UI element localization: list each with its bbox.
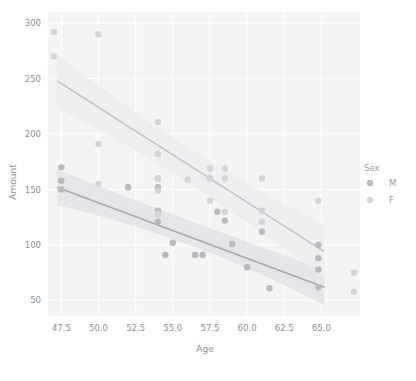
data-point: [229, 241, 235, 247]
data-point: [207, 197, 213, 203]
data-point: [155, 218, 161, 224]
x-tick-label: 57.5: [200, 323, 219, 333]
y-tick-label: 250: [25, 74, 41, 84]
data-point: [222, 165, 228, 171]
data-point: [315, 284, 321, 290]
data-point: [155, 119, 161, 125]
data-point: [162, 252, 168, 258]
x-tick-label: 55.0: [163, 323, 182, 333]
scatter-plot-svg: 47.550.052.555.057.560.062.565.0 5010015…: [0, 0, 416, 381]
data-point: [351, 288, 357, 294]
data-point: [51, 29, 57, 35]
data-point: [155, 187, 161, 193]
y-axis-tick-labels: 50100150200250300: [25, 18, 41, 305]
legend-label-F: F: [389, 195, 394, 205]
legend: Sex MF: [364, 163, 396, 205]
data-point: [222, 209, 228, 215]
data-point: [95, 31, 101, 37]
data-point: [266, 285, 272, 291]
x-tick-label: 62.5: [275, 323, 294, 333]
data-point: [244, 264, 250, 270]
data-point: [259, 218, 265, 224]
data-point: [170, 240, 176, 246]
data-point: [155, 151, 161, 157]
data-point: [315, 266, 321, 272]
data-point: [155, 175, 161, 181]
y-axis-title: Amount: [8, 164, 18, 200]
data-point: [351, 270, 357, 276]
data-point: [222, 175, 228, 181]
y-tick-label: 100: [25, 240, 41, 250]
data-point: [315, 197, 321, 203]
data-point: [259, 228, 265, 234]
x-tick-label: 50.0: [89, 323, 108, 333]
data-point: [207, 175, 213, 181]
data-point: [214, 209, 220, 215]
legend-marker-F: [367, 197, 373, 203]
data-point: [155, 211, 161, 217]
data-point: [259, 175, 265, 181]
y-tick-label: 200: [25, 129, 41, 139]
data-point: [184, 176, 190, 182]
x-tick-label: 47.5: [52, 323, 71, 333]
data-point: [222, 217, 228, 223]
legend-marker-M: [367, 180, 373, 186]
data-point: [207, 165, 213, 171]
x-tick-label: 65.0: [312, 323, 331, 333]
y-tick-label: 150: [25, 185, 41, 195]
data-point: [95, 181, 101, 187]
data-point: [315, 255, 321, 261]
legend-title: Sex: [364, 163, 380, 173]
data-point: [58, 177, 64, 183]
x-tick-label: 60.0: [238, 323, 257, 333]
data-point: [192, 252, 198, 258]
x-tick-label: 52.5: [126, 323, 145, 333]
data-point: [199, 252, 205, 258]
data-point: [95, 141, 101, 147]
data-point: [58, 186, 64, 192]
y-tick-label: 50: [30, 295, 41, 305]
y-tick-label: 300: [25, 18, 41, 28]
legend-label-M: M: [389, 178, 396, 188]
data-point: [315, 242, 321, 248]
chart-figure: 47.550.052.555.057.560.062.565.0 5010015…: [0, 0, 416, 381]
legend-entries: MF: [367, 178, 397, 205]
data-point: [58, 164, 64, 170]
data-point: [51, 53, 57, 59]
data-point: [259, 207, 265, 213]
data-point: [125, 184, 131, 190]
x-axis-tick-labels: 47.550.052.555.057.560.062.565.0: [52, 323, 331, 333]
x-axis-title: Age: [196, 344, 214, 354]
